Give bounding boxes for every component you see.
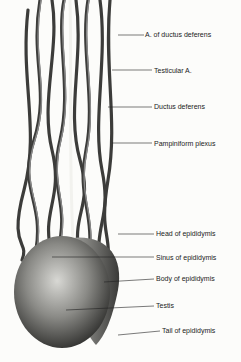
leader-line	[118, 331, 160, 335]
vessels	[18, 0, 112, 275]
testis-shape	[14, 236, 110, 348]
label-head: Head of epididymis	[156, 230, 216, 238]
label-tail: Tail of epididymis	[162, 327, 215, 335]
label-sinus: Sinus of epididymis	[156, 254, 216, 262]
label-ductus: Ductus deferens	[154, 103, 205, 111]
anatomy-figure: A. of ductus deferensTesticular A.Ductus…	[0, 0, 241, 362]
label-body: Body of epididymis	[156, 275, 215, 283]
label-testis: Testis	[156, 302, 174, 310]
spermatic-cord-illustration	[0, 0, 241, 362]
label-pampiniform: Pampiniform plexus	[154, 140, 215, 148]
label-testicular-a: Testicular A.	[154, 67, 192, 75]
label-a-ductus: A. of ductus deferens	[145, 31, 211, 39]
